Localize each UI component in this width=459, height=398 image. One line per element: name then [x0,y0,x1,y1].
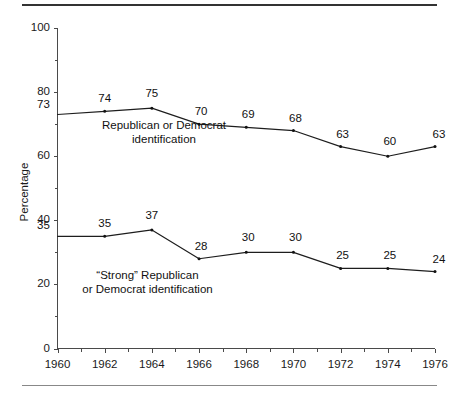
annotation-lower-line1: “Strong” Republican [55,268,240,282]
x-tick-label: 1970 [273,359,313,371]
data-point-label: 37 [140,210,164,222]
x-tick-label: 1960 [38,359,78,371]
data-point-label: 25 [331,250,355,262]
annotation-lower-series: “Strong” Republican or Democrat identifi… [55,268,240,296]
data-point-label: 24 [427,254,451,266]
x-tick-label: 1968 [226,359,266,371]
series-marker [339,145,342,148]
y-tick-label: 0 [24,343,50,355]
series-marker [434,270,437,273]
x-tick-label: 1964 [132,359,172,371]
data-point-label: 30 [283,232,307,244]
series-marker [245,251,248,254]
x-tick-label: 1972 [321,359,361,371]
series-marker [339,267,342,270]
x-tick-label: 1976 [415,359,455,371]
series-marker [103,110,106,113]
y-tick-label: 60 [24,150,50,162]
annotation-upper-series: Republican or Democrat identification [79,118,249,146]
series-marker [292,251,295,254]
series-marker [150,107,153,110]
annotation-upper-line2: identification [79,132,249,146]
series-marker [103,235,106,238]
series-marker [434,145,437,148]
series-marker [292,129,295,132]
data-point-label: 70 [189,106,213,118]
series-marker [198,257,201,260]
x-tick-label: 1966 [179,359,219,371]
data-point-label: 35 [32,220,56,232]
data-point-label: 73 [32,99,56,111]
y-tick-label: 100 [24,22,50,34]
axes-group [54,28,436,353]
x-tick-label: 1974 [368,359,408,371]
series-marker [150,228,153,231]
data-point-label: 63 [331,129,355,141]
annotation-upper-line1: Republican or Democrat [79,118,249,132]
data-point-label: 68 [283,113,307,125]
data-point-label: 25 [378,250,402,262]
data-point-label: 60 [378,136,402,148]
x-tick-label: 1962 [85,359,125,371]
data-point-label: 74 [93,93,117,105]
series-marker [386,155,389,158]
data-point-label: 75 [140,88,164,100]
y-tick-label: 20 [24,278,50,290]
plot-canvas [0,0,459,398]
series-marker [386,267,389,270]
chart-figure: Percentage 020406080100 1960196219641966… [0,0,459,398]
data-point-label: 63 [427,129,451,141]
data-point-label: 30 [236,232,260,244]
annotation-lower-line2: or Democrat identification [55,282,240,296]
data-point-label: 28 [189,241,213,253]
x-axis-major-ticks [59,349,436,353]
y-tick-label: 80 [24,86,50,98]
data-point-label: 35 [93,218,117,230]
